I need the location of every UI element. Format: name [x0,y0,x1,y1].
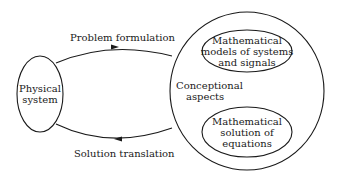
math-models-label: Mathematical models of systems and signa… [201,35,294,68]
physical-system-line2: system [19,94,61,105]
arrowhead-right-icon [111,45,119,50]
problem-formulation-arrow [56,49,172,63]
math-solution-line1: Mathematical [212,116,282,127]
conceptional-line2: aspects [176,91,243,102]
math-solution-label: Mathematical solution of equations [212,116,282,149]
math-solution-line3: equations [212,138,282,149]
physical-system-label: Physical system [19,83,61,105]
solution-translation-arrow [56,124,172,138]
solution-translation-label: Solution translation [74,148,175,159]
conceptional-aspects-label: Conceptional aspects [176,80,243,102]
arrowhead-left-icon [114,137,122,142]
math-models-line2: models of systems [201,46,294,57]
math-solution-line2: solution of [212,127,282,138]
conceptional-line1: Conceptional [176,80,243,91]
problem-formulation-label: Problem formulation [70,32,175,43]
math-models-line1: Mathematical [201,35,294,46]
math-models-line3: and signals [201,57,294,68]
physical-system-line1: Physical [19,83,61,94]
